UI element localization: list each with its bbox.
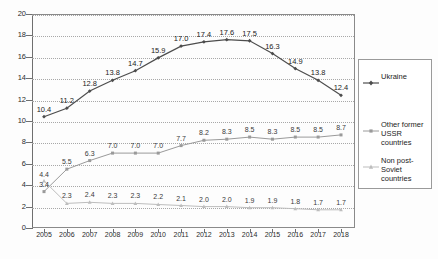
x-tick-mark <box>272 229 273 233</box>
data-label: 13.8 <box>105 69 120 77</box>
y-tick-mark <box>26 207 32 208</box>
data-label: 5.5 <box>62 158 72 166</box>
x-tick-mark <box>90 229 91 233</box>
legend-item[interactable]: Non post-Soviet countries <box>363 156 431 183</box>
data-label: 2.2 <box>153 193 163 201</box>
data-label: 7.0 <box>108 142 118 150</box>
chart-legend: UkraineOther former USSR countriesNon po… <box>358 59 432 189</box>
y-tick-label: 14 <box>0 74 26 82</box>
y-tick-mark <box>26 142 32 143</box>
x-tick-mark <box>113 229 114 233</box>
data-label: 8.3 <box>268 128 278 136</box>
data-label: 17.5 <box>242 30 257 38</box>
data-label: 17.4 <box>197 31 212 39</box>
gridline <box>32 186 354 187</box>
gridline <box>32 143 354 144</box>
data-label: 2.0 <box>222 196 232 204</box>
data-label: 8.3 <box>222 128 232 136</box>
y-tick-label: 12 <box>0 96 26 104</box>
y-tick-label: 8 <box>0 138 26 146</box>
x-tick-mark <box>341 229 342 233</box>
data-label: 2.3 <box>131 192 141 200</box>
x-tick-mark <box>158 229 159 233</box>
data-label: 1.9 <box>245 197 255 205</box>
x-tick-mark <box>67 229 68 233</box>
data-label: 2.3 <box>108 192 118 200</box>
x-tick-mark <box>44 229 45 233</box>
data-label: 8.5 <box>313 126 323 134</box>
data-label: 8.5 <box>245 126 255 134</box>
data-label: 8.7 <box>336 124 346 132</box>
gridline <box>32 79 354 80</box>
data-label: 17.0 <box>174 35 189 43</box>
data-label: 17.6 <box>219 29 234 37</box>
data-label: 12.8 <box>82 80 97 88</box>
y-tick-mark <box>26 14 32 15</box>
data-label: 12.4 <box>334 84 349 92</box>
y-tick-label: 4 <box>0 181 26 189</box>
data-label: 13.8 <box>311 69 326 77</box>
y-tick-label: 0 <box>0 224 26 232</box>
legend-label: Non post-Soviet countries <box>381 156 431 183</box>
y-tick-mark <box>26 121 32 122</box>
data-label: 1.8 <box>290 198 300 206</box>
data-label: 4.4 <box>39 171 49 179</box>
data-label: 7.0 <box>131 142 141 150</box>
x-tick-mark <box>135 229 136 233</box>
data-label: 8.5 <box>290 126 300 134</box>
gridline <box>32 58 354 59</box>
data-label: 8.2 <box>199 129 209 137</box>
legend-label: Ukraine <box>381 72 407 81</box>
x-tick-mark <box>204 229 205 233</box>
legend-item[interactable]: Other former USSR countries <box>363 120 431 147</box>
y-tick-label: 16 <box>0 53 26 61</box>
x-tick-mark <box>318 229 319 233</box>
data-label: 10.4 <box>37 106 52 114</box>
y-tick-mark <box>26 164 32 165</box>
legend-key-icon <box>363 157 379 165</box>
chart-figure: 02468101214161820 2005200620072008200920… <box>0 0 438 259</box>
data-label: 2.0 <box>199 196 209 204</box>
legend-item[interactable]: Ukraine <box>363 72 407 81</box>
gridline <box>32 15 354 16</box>
data-label: 7.0 <box>153 142 163 150</box>
y-tick-mark <box>26 35 32 36</box>
data-label: 14.9 <box>288 58 303 66</box>
x-tick-mark <box>250 229 251 233</box>
legend-key-icon <box>363 121 379 129</box>
data-label: 3.4 <box>39 181 49 189</box>
y-tick-label: 2 <box>0 203 26 211</box>
x-tick-mark <box>181 229 182 233</box>
gridline <box>32 165 354 166</box>
plot-area <box>32 14 355 228</box>
x-tick-mark <box>295 229 296 233</box>
data-label: 16.3 <box>265 43 280 51</box>
data-label: 2.1 <box>176 195 186 203</box>
data-label: 11.2 <box>60 97 74 105</box>
y-tick-mark <box>26 57 32 58</box>
data-label: 6.3 <box>85 150 95 158</box>
data-label: 7.7 <box>176 135 186 143</box>
data-label: 1.7 <box>313 199 323 207</box>
gridline <box>32 208 354 209</box>
y-tick-label: 20 <box>0 10 26 18</box>
y-tick-label: 6 <box>0 160 26 168</box>
x-tick-mark <box>227 229 228 233</box>
data-label: 2.3 <box>62 192 72 200</box>
data-label: 2.4 <box>85 191 95 199</box>
y-tick-mark <box>26 100 32 101</box>
y-tick-mark <box>26 228 32 229</box>
gridline <box>32 122 354 123</box>
data-label: 14.7 <box>128 60 143 68</box>
data-label: 15.9 <box>151 47 166 55</box>
data-label: 1.7 <box>336 199 346 207</box>
gridline <box>32 101 354 102</box>
y-tick-mark <box>26 78 32 79</box>
y-tick-mark <box>26 185 32 186</box>
legend-label: Other former USSR countries <box>381 120 431 147</box>
y-tick-label: 10 <box>0 117 26 125</box>
y-tick-label: 18 <box>0 31 26 39</box>
data-label: 1.9 <box>268 197 278 205</box>
gridline <box>32 36 354 37</box>
legend-key-icon <box>363 73 379 81</box>
